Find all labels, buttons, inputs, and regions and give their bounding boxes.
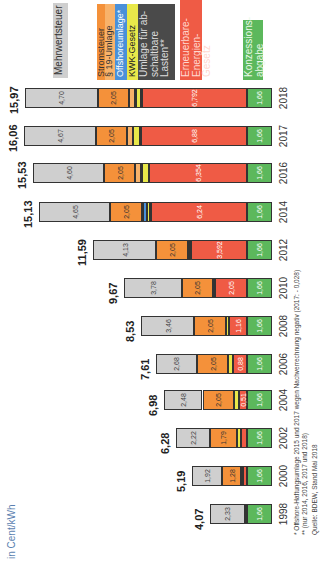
- bar-2000: 1,661,281,92: [0, 466, 323, 486]
- segment-value: 4,60: [65, 166, 72, 180]
- segment-umlage-f-r-abschaltbare-lasten: [141, 88, 143, 108]
- segment--19-umlage: [142, 202, 144, 222]
- segment-value: 1,66: [256, 469, 263, 483]
- segment-value: 6,88: [190, 129, 197, 143]
- segment-erneuerbare-energien-gesetz: [241, 428, 246, 448]
- year-label: 2012: [278, 230, 289, 270]
- segment-value: 4,70: [58, 91, 65, 105]
- segment-value: 1,79: [220, 431, 227, 445]
- segment-value: 4,13: [121, 243, 128, 257]
- footnote-3: Quelle: BDEW, Stand Mai 2018: [311, 444, 318, 535]
- segment-value: 1,92: [204, 469, 211, 483]
- segment-value: 0,51: [239, 393, 246, 407]
- segment-value: 3,78: [149, 281, 156, 295]
- footnote-2: ** (nur 2014, 2016, 2017 und 2018): [301, 433, 308, 535]
- segment-value: 1,66: [256, 243, 263, 257]
- segment-stromsteuer: 2,05: [203, 390, 234, 410]
- segment-value: 1,66: [256, 129, 263, 143]
- year-label: 2018: [278, 78, 289, 118]
- segment--19-umlage: [188, 240, 190, 260]
- footnote-1: * Offshore-Haftungsumlage 2015 und 2017 …: [293, 270, 300, 535]
- bar-total: 15,53: [16, 161, 28, 189]
- bar-total: 16,06: [7, 124, 19, 152]
- segment-value: 1,66: [256, 166, 263, 180]
- segment-erneuerbare-energien-gesetz: 0,51: [239, 390, 247, 410]
- segment-value: 0,88: [236, 357, 243, 371]
- segment-stromsteuer: 2,05: [194, 316, 225, 336]
- segment-konzessionsabgabe: 1,66: [247, 163, 272, 183]
- legend-item: Konzessions- abgabe: [243, 20, 263, 80]
- bar-2004: 1,660,512,052,48: [0, 390, 323, 410]
- segment-offshoreumlage: [135, 88, 137, 108]
- segment-value: 2,22: [189, 431, 196, 445]
- year-label: 2006: [278, 344, 289, 384]
- segment-erneuerbare-energien-gesetz: 1,16: [229, 316, 247, 336]
- segment-kwk-gesetz: [241, 466, 243, 486]
- bar-2006: 1,660,882,052,68: [0, 354, 323, 374]
- bar-total: 15,97: [8, 86, 20, 114]
- segment-konzessionsabgabe: 1,66: [247, 240, 272, 260]
- bar-total: 9,67: [107, 283, 119, 304]
- bar-2014: 1,666,242,054,65: [0, 202, 323, 222]
- segment-value: 2,05: [122, 205, 129, 219]
- bar-total: 5,19: [175, 471, 187, 492]
- bar-total: 8,53: [124, 321, 136, 342]
- segment-value: 4,67: [56, 129, 63, 143]
- segment-value: 2,05: [108, 129, 115, 143]
- segment-value: 1,28: [228, 469, 235, 483]
- bar-total: 7,61: [139, 359, 151, 380]
- legend-item: KWK-Gesetz: [127, 4, 138, 80]
- segment-konzessionsabgabe: 1,66: [247, 126, 272, 146]
- segment-erneuerbare-energien-gesetz: 6,792: [142, 88, 246, 108]
- segment-mehrwertsteuer: 3,78: [124, 278, 182, 298]
- segment-value: 6,792: [191, 89, 198, 107]
- bar-total: 6,98: [147, 395, 159, 416]
- segment-kwk-gesetz: [237, 428, 241, 448]
- segment-erneuerbare-energien-gesetz: 6,88: [141, 126, 247, 146]
- legend-item: Erneuerbare- Energien-Gesetz: [180, 0, 202, 80]
- segment-konzessionsabgabe: 1,66: [247, 316, 272, 336]
- segment-konzessionsabgabe: 1,66: [247, 390, 272, 410]
- segment-konzessionsabgabe: 1,66: [247, 202, 272, 222]
- segment-erneuerbare-energien-gesetz: 2,05: [215, 278, 246, 298]
- year-label: 2000: [278, 456, 289, 496]
- segment-umlage-f-r-abschaltbare-lasten: [140, 126, 142, 146]
- segment-value: 1,66: [256, 319, 263, 333]
- segment-value: 1,16: [234, 319, 241, 333]
- bar-total: 11,59: [76, 239, 88, 266]
- year-label: 2008: [278, 306, 289, 346]
- segment-stromsteuer: 2,05: [182, 278, 213, 298]
- segment--19-umlage: [129, 88, 135, 108]
- segment-kwk-gesetz: [147, 202, 150, 222]
- year-label: 1998: [278, 494, 289, 534]
- segment-offshoreumlage: [141, 163, 143, 183]
- bar-total: 6,28: [159, 433, 171, 454]
- legend-item: § 19-Umlage: [105, 4, 115, 80]
- segment-mehrwertsteuer: 4,70: [25, 88, 97, 108]
- segment--19-umlage: [127, 126, 133, 146]
- segment-value: 1,66: [256, 281, 263, 295]
- segment-value: 1,66: [256, 357, 263, 371]
- legend-item: Mehrwertsteuer: [53, 3, 68, 78]
- segment-value: 6,354: [194, 164, 201, 182]
- year-label: 2017: [278, 116, 289, 156]
- segment-mehrwertsteuer: 4,13: [93, 240, 156, 260]
- segment-value: 2,05: [110, 91, 117, 105]
- year-label: 2010: [278, 268, 289, 308]
- segment-kwk-gesetz: [190, 240, 192, 260]
- chart-frame: in Cent/kWh 1,662,334,0719981,661,281,92…: [0, 0, 323, 567]
- segment-kwk-gesetz: [142, 163, 149, 183]
- segment-stromsteuer: 1,28: [222, 466, 242, 486]
- segment-value: 2,33: [224, 507, 231, 521]
- year-label: 2004: [278, 380, 289, 420]
- segment-kwk-gesetz: [226, 316, 229, 336]
- segment-value: 2,05: [227, 281, 234, 295]
- segment-stromsteuer: 2,05: [98, 88, 129, 108]
- segment-erneuerbare-energien-gesetz: 0,88: [233, 354, 246, 374]
- segment-value: 4,65: [71, 205, 78, 219]
- segment-value: 3,592: [215, 241, 222, 259]
- segment-value: 1,66: [256, 431, 263, 445]
- bar-2017: 1,666,882,054,67: [0, 126, 323, 146]
- segment-konzessionsabgabe: 1,66: [247, 278, 272, 298]
- segment-konzessionsabgabe: 1,66: [247, 428, 272, 448]
